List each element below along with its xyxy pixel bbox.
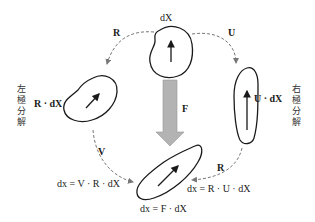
edge-label-top-U: U [228, 28, 235, 38]
left-intermediate-shape [64, 76, 117, 122]
current-label: dx = F · dX [140, 204, 187, 214]
edge-label-V: V [98, 147, 105, 157]
right-intermediate-shape [234, 68, 258, 144]
reference-label: dX [160, 13, 172, 23]
edge-label-F: F [182, 104, 188, 114]
left-intermediate-label: R · dX [34, 99, 62, 109]
left-decomposition-equation: dx = V · R · dX [57, 179, 120, 189]
left-polar-decomposition-label: 左 極 分 解 [16, 84, 26, 128]
right-decomposition-equation: dx = R · U · dX [187, 184, 250, 194]
edge-label-top-R: R [113, 28, 120, 38]
deformation-arrow-F [156, 80, 184, 146]
right-polar-decomposition-label: 右 極 分 解 [291, 84, 301, 128]
edge-label-bottom-R: R [217, 163, 224, 173]
diagram-canvas [0, 0, 315, 222]
right-intermediate-label: U · dX [254, 94, 282, 104]
reference-shape [150, 26, 193, 77]
